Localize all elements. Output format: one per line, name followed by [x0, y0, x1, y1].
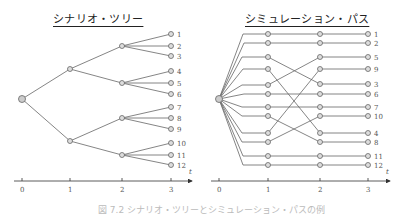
left-tick-3: 3 — [169, 186, 173, 194]
svg-text:5: 5 — [374, 54, 378, 62]
svg-text:4: 4 — [374, 130, 379, 138]
svg-text:4: 4 — [177, 68, 182, 76]
right-tick-0: 0 — [217, 186, 221, 194]
svg-text:3: 3 — [374, 81, 378, 89]
svg-text:2: 2 — [177, 43, 181, 51]
right-tick-1: 1 — [266, 186, 270, 194]
svg-text:10: 10 — [374, 113, 383, 121]
svg-text:6: 6 — [374, 91, 379, 99]
svg-text:9: 9 — [177, 126, 181, 134]
figure-caption: 図 7.2 シナリオ・ツリーとシミュレーション・パスの例 — [98, 203, 325, 214]
svg-text:1: 1 — [177, 31, 181, 39]
svg-text:12: 12 — [177, 162, 186, 170]
simulation-path-end-labels: 1 2 5 9 3 6 7 10 4 8 11 12 — [374, 31, 383, 170]
simulation-paths — [219, 34, 368, 165]
svg-text:7: 7 — [177, 104, 181, 112]
svg-text:10: 10 — [177, 140, 186, 148]
left-tick-1: 1 — [68, 186, 72, 194]
svg-text:1: 1 — [374, 31, 378, 39]
left-tick-0: 0 — [20, 186, 24, 194]
right-axis-label: t — [386, 168, 389, 176]
svg-text:3: 3 — [177, 53, 181, 61]
right-tick-2: 2 — [318, 186, 322, 194]
svg-text:11: 11 — [177, 152, 186, 160]
svg-text:7: 7 — [374, 104, 378, 112]
right-tick-3: 3 — [366, 186, 370, 194]
svg-text:9: 9 — [374, 66, 378, 74]
scenario-tree — [22, 34, 171, 165]
scenario-tree-leaf-labels: 1 2 3 4 5 6 7 8 9 10 11 12 — [177, 31, 186, 170]
svg-text:6: 6 — [177, 91, 182, 99]
svg-text:11: 11 — [374, 153, 383, 161]
simulation-path-axis — [211, 178, 390, 181]
svg-text:8: 8 — [177, 115, 181, 123]
svg-text:8: 8 — [374, 139, 378, 147]
scenario-tree-axis — [14, 178, 192, 181]
left-tick-2: 2 — [120, 186, 124, 194]
svg-text:5: 5 — [177, 80, 181, 88]
svg-text:2: 2 — [374, 40, 378, 48]
diagram-canvas: 1 2 3 4 5 6 7 8 9 10 11 12 t 0 1 2 3 — [0, 0, 398, 214]
svg-text:12: 12 — [374, 162, 383, 170]
left-axis-label: t — [189, 168, 192, 176]
